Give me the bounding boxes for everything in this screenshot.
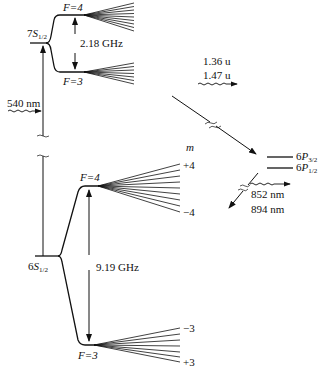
- label-6s-f3: F=3: [78, 350, 98, 361]
- label-6s12: 6S1/2: [28, 261, 48, 274]
- label-894nm: 894 nm: [251, 204, 284, 215]
- label-1-47u: 1.47 u: [203, 70, 231, 81]
- fan-6s-f4: [98, 164, 180, 212]
- label-9-19ghz: 9.19 GHz: [96, 262, 139, 273]
- label-m-header: m: [186, 142, 194, 153]
- label-1-36u: 1.36 u: [203, 56, 231, 67]
- energy-level-diagram: [0, 0, 331, 374]
- level-7s: [30, 15, 86, 72]
- label-7s12: 7S1/2: [27, 28, 47, 41]
- label-m-plus3: +3: [183, 357, 195, 368]
- label-852nm: 852 nm: [251, 189, 284, 200]
- fan-7s-f3: [84, 63, 134, 84]
- label-m-minus4: −4: [183, 207, 195, 218]
- label-6p12: 6P1/2: [296, 162, 317, 175]
- label-540nm: 540 nm: [7, 98, 40, 109]
- label-2-18ghz: 2.18 GHz: [80, 38, 123, 49]
- label-m-minus3: −3: [183, 323, 195, 334]
- fan-6s-f3: [94, 328, 180, 362]
- label-7s-f4: F=4: [63, 2, 83, 13]
- label-7s-f3: F=3: [63, 76, 83, 87]
- fan-7s-f4: [84, 3, 134, 31]
- label-6s-f4: F=4: [80, 172, 100, 183]
- label-m-plus4: +4: [183, 160, 195, 171]
